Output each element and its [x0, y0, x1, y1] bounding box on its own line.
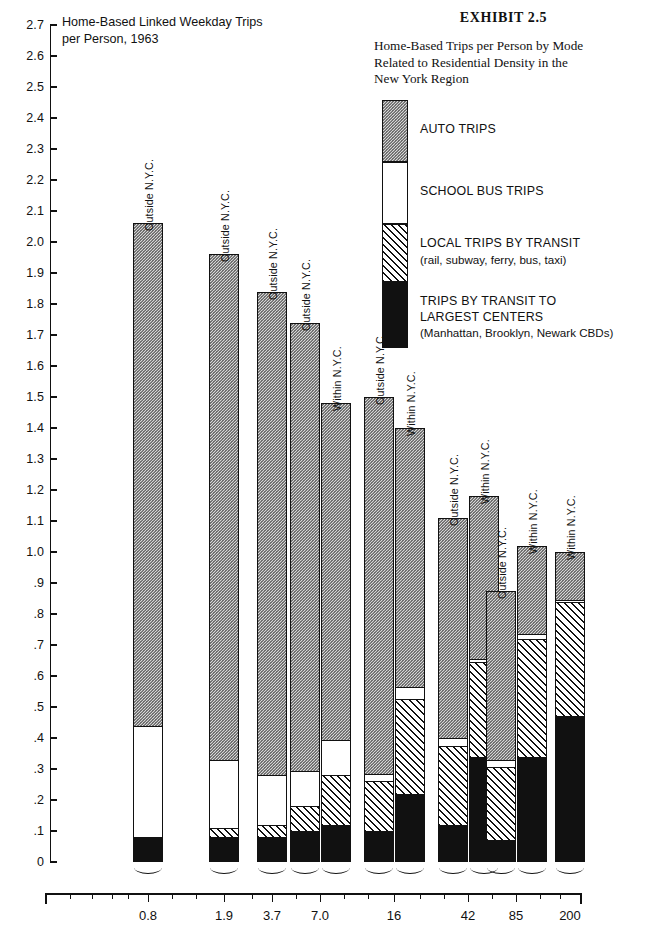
bar-segment-auto: [438, 518, 468, 738]
y-axis-tick: [50, 241, 57, 242]
bar-segment-local: [364, 781, 394, 831]
bar-segment-auto: [257, 292, 287, 776]
x-axis-tick: [320, 893, 321, 902]
legend-label-local: LOCAL TRIPS BY TRANSIT(rail, subway, fer…: [420, 236, 580, 267]
x-axis-tick: [172, 893, 173, 899]
y-axis-tick-label: 1.2: [0, 483, 44, 497]
bar-group-label: Outside N.Y.C.: [143, 159, 155, 231]
stacked-bar: [133, 223, 163, 862]
bar-segment-auto: [364, 397, 394, 774]
exhibit-subtitle-line: New York Region: [374, 71, 634, 88]
y-axis-tick: [50, 365, 57, 366]
x-axis-tick: [128, 893, 129, 899]
x-axis-tick: [296, 893, 297, 899]
bar-brace: [556, 866, 584, 874]
y-axis-tick-label: 1.1: [0, 514, 44, 528]
x-axis-tick: [344, 893, 345, 899]
bar-segment-bus: [517, 634, 547, 639]
x-axis-tick: [560, 893, 561, 899]
y-axis-tick: [50, 799, 57, 800]
bar-segment-bus: [555, 600, 585, 602]
bar-brace: [518, 866, 546, 874]
y-axis-tick: [50, 117, 57, 118]
y-axis-tick-label: .9: [0, 576, 44, 590]
bar-segment-center: [290, 831, 320, 862]
x-axis-tick-label: 85: [486, 908, 546, 923]
exhibit-subtitle: Home-Based Trips per Person by ModeRelat…: [374, 38, 634, 88]
y-axis-tick-label: 1.9: [0, 266, 44, 280]
x-axis-tick: [540, 893, 541, 899]
y-axis-tick: [50, 303, 57, 304]
bar-group-label: Within N.Y.C.: [331, 346, 343, 411]
y-axis-tick-label: 2.7: [0, 18, 44, 32]
y-axis-tick-label: 1.7: [0, 328, 44, 342]
bar-segment-center: [486, 840, 516, 862]
x-axis-tick: [420, 893, 421, 899]
legend-label-line: SCHOOL BUS TRIPS: [420, 184, 544, 200]
y-axis-tick: [50, 489, 57, 490]
legend-swatch-auto: [382, 100, 408, 162]
y-axis-tick: [50, 179, 57, 180]
y-axis-tick: [50, 427, 57, 428]
x-axis-tick: [148, 893, 149, 902]
y-axis-tick: [50, 675, 57, 676]
stacked-bar: [486, 591, 516, 862]
legend-label-center: TRIPS BY TRANSIT TOLARGEST CENTERS(Manha…: [420, 294, 613, 341]
bar-group-label: Outside N.Y.C.: [267, 228, 279, 300]
y-axis-tick-label: 1.6: [0, 359, 44, 373]
x-axis-tick-label: 16: [364, 908, 424, 923]
bar-segment-center: [438, 825, 468, 862]
stacked-bar: [517, 546, 547, 862]
chart-title: Home-Based Linked Weekday Tripsper Perso…: [62, 14, 263, 48]
bar-group-label: Outside N.Y.C.: [219, 190, 231, 262]
legend-label-line: LOCAL TRIPS BY TRANSIT: [420, 236, 580, 252]
y-axis-tick-label: 2.3: [0, 142, 44, 156]
bar-segment-center: [395, 794, 425, 862]
bar-group-label: Within N.Y.C.: [405, 371, 417, 436]
bar-segment-center: [133, 837, 163, 862]
stacked-bar: [438, 518, 468, 862]
bar-segment-local: [321, 775, 351, 825]
bar-segment-bus: [395, 687, 425, 699]
bar-group-label: Within N.Y.C.: [479, 439, 491, 504]
bar-segment-bus: [364, 774, 394, 782]
bar-segment-center: [209, 837, 239, 862]
y-axis-tick: [50, 334, 57, 335]
y-axis-tick-label: 2.4: [0, 111, 44, 125]
y-axis-tick-label: 1.8: [0, 297, 44, 311]
legend-label-line: TRIPS BY TRANSIT TO: [420, 294, 613, 310]
chart-title-line: per Person, 1963: [62, 31, 263, 48]
bar-brace: [258, 866, 286, 874]
x-axis-tick: [394, 893, 395, 902]
x-axis-tick: [252, 893, 253, 899]
x-axis-tick: [444, 893, 445, 899]
y-axis-tick: [50, 396, 57, 397]
legend-label-auto: AUTO TRIPS: [420, 122, 496, 138]
legend-swatch-local: [382, 224, 408, 282]
bar-segment-auto: [133, 223, 163, 725]
bar-segment-center: [257, 837, 287, 862]
bar-segment-auto: [209, 254, 239, 759]
y-axis-tick-label: .5: [0, 700, 44, 714]
y-axis-tick: [50, 210, 57, 211]
y-axis-tick-label: .4: [0, 731, 44, 745]
x-axis-tick: [92, 893, 93, 899]
bar-segment-auto: [517, 546, 547, 634]
y-axis-tick: [50, 613, 57, 614]
bar-segment-auto: [290, 323, 320, 771]
y-axis-tick: [50, 520, 57, 521]
exhibit-subtitle-line: Home-Based Trips per Person by Mode: [374, 38, 634, 55]
x-axis-tick: [70, 893, 71, 899]
stacked-bar: [364, 397, 394, 862]
y-axis-tick: [50, 148, 57, 149]
bar-segment-center: [555, 716, 585, 862]
x-axis-tick: [112, 893, 113, 899]
bar-brace: [210, 866, 238, 874]
bar-segment-local: [517, 639, 547, 757]
y-axis-tick-label: 1.5: [0, 390, 44, 404]
stacked-bar: [257, 292, 287, 862]
stacked-bar: [321, 403, 351, 862]
bar-segment-local: [555, 602, 585, 717]
bar-brace: [396, 866, 424, 874]
legend-sublabel-line: (Manhattan, Brooklyn, Newark CBDs): [420, 325, 613, 341]
